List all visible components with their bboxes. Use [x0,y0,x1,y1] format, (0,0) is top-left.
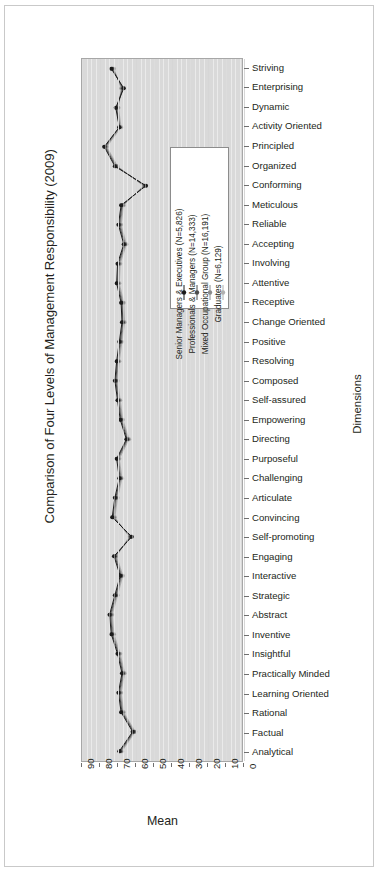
category-tick [244,302,249,303]
category-tick [244,694,249,695]
gridline-minor [100,59,101,761]
category-label: Composed [252,374,298,388]
legend-marker [218,285,227,304]
category-label: Directing [252,432,290,446]
category-label: Attentive [252,276,289,290]
category-label: Conforming [252,178,302,192]
value-tick-label: 90 [85,758,96,769]
gridline-minor [150,59,151,761]
gridline-minor [105,59,106,761]
category-tick [244,478,249,479]
category-label: Factual [252,726,283,740]
legend: Senior Managers & Executives (N=5,826)Pr… [170,147,229,309]
category-label: Engaging [252,550,293,564]
gridline-minor [91,59,92,761]
gridline-minor [136,59,137,761]
series-line [107,69,143,751]
category-label: Striving [252,61,284,75]
category-tick [244,557,249,558]
gridline-minor [240,59,241,761]
value-tick-label: 60 [139,758,150,769]
category-label: Accepting [252,237,294,251]
gridline-minor [87,59,88,761]
value-tick-label: 0 [247,764,258,769]
value-tick-label: 10 [229,758,240,769]
category-tick [244,185,249,186]
gridline-minor [132,59,133,761]
category-axis: StrivingEnterprisingDynamicActivity Orie… [244,58,364,762]
category-label: Self-promoting [252,530,314,544]
category-tick [244,400,249,401]
category-tick [244,752,249,753]
category-tick [244,713,249,714]
category-tick [244,674,249,675]
gridline-minor [96,59,97,761]
legend-label: Graduates (N=6,129) [214,245,223,322]
value-tick [207,763,208,767]
value-tick-label: 50 [157,758,168,769]
category-label: Strategic [252,589,290,603]
category-tick [244,615,249,616]
category-tick [244,596,249,597]
gridline-minor [82,59,83,761]
category-label: Meticulous [252,198,298,212]
gridline-minor [163,59,164,761]
category-tick [244,576,249,577]
legend-label: Senior Managers & Executives (N=5,826) [175,209,184,360]
category-tick [244,518,249,519]
value-tick-label: 20 [211,758,222,769]
legend-marker [192,285,201,304]
category-label: Change Oriented [252,315,325,329]
chart-frame: Comparison of Four Levels of Management … [4,5,374,867]
category-label: Principled [252,139,294,153]
category-tick [244,459,249,460]
category-label: Interactive [252,569,296,583]
category-tick [244,126,249,127]
gridline-minor [109,59,110,761]
category-label: Convincing [252,511,299,525]
value-tick [225,763,226,767]
category-label: Positive [252,335,286,349]
category-tick [244,654,249,655]
value-tick [117,763,118,767]
category-tick [244,342,249,343]
category-tick [244,68,249,69]
category-label: Reliable [252,217,287,231]
x-axis-title: Mean [81,814,244,828]
chart-title: Comparison of Four Levels of Management … [42,264,57,524]
category-tick [244,244,249,245]
gridline-minor [231,59,232,761]
value-tick [99,763,100,767]
category-label: Learning Oriented [252,687,329,701]
value-tick-label: 40 [175,758,186,769]
legend-label: Mixed Occupational Group (N=16,191) [201,214,210,354]
value-tick-label: 30 [193,758,204,769]
category-label: Analytical [252,745,293,759]
category-label: Dynamic [252,100,289,114]
gridline-minor [123,59,124,761]
gridline-minor [159,59,160,761]
category-tick [244,263,249,264]
series-line [106,69,144,751]
gridline-minor [114,59,115,761]
value-tick [171,763,172,767]
category-label: Activity Oriented [252,119,322,133]
category-tick [244,107,249,108]
legend-marker [179,285,188,304]
category-label: Articulate [252,491,292,505]
value-tick [135,763,136,767]
y-axis-title: Dimensions [351,349,363,459]
category-tick [244,635,249,636]
category-tick [244,498,249,499]
category-label: Self-assured [252,393,306,407]
legend-label: Professionals & Managers (N=14,333) [188,214,197,353]
category-label: Abstract [252,608,287,622]
category-tick [244,87,249,88]
category-tick [244,146,249,147]
category-label: Insightful [252,647,290,661]
gridline-minor [127,59,128,761]
category-label: Involving [252,256,290,270]
category-tick [244,537,249,538]
category-label: Practically Minded [252,667,330,681]
value-tick-label: 70 [121,758,132,769]
